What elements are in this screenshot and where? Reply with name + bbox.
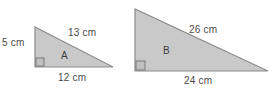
triangle-a-name-label: A [61, 50, 68, 61]
triangle-b-name-label: B [163, 45, 170, 56]
triangle-b-shape [135, 9, 268, 71]
triangle-a-right-angle-marker [36, 58, 44, 66]
similar-triangles-figure: 5 cm 13 cm 12 cm A 26 cm 24 cm B [0, 0, 276, 99]
triangle-b-right-angle-marker [136, 61, 145, 70]
triangle-a-vertical-leg-label: 5 cm [2, 37, 24, 48]
triangle-a-horizontal-leg-label: 12 cm [58, 72, 86, 83]
triangle-b-hypotenuse-label: 26 cm [189, 24, 217, 35]
triangles-canvas [0, 0, 276, 99]
triangle-a-hypotenuse-label: 13 cm [68, 27, 96, 38]
triangle-b-horizontal-leg-label: 24 cm [184, 75, 212, 86]
